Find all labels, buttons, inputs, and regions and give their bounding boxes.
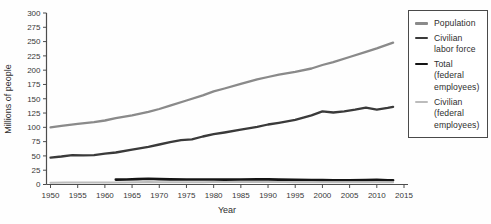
y-tick-label: 250 <box>27 37 41 46</box>
population-line <box>51 43 394 128</box>
y-tick-label: 275 <box>27 23 41 32</box>
legend-label-line: (federal <box>434 70 479 82</box>
population-legend-swatch <box>415 22 428 25</box>
legend-item-label: Population <box>434 18 476 30</box>
total-federal-employees-line <box>116 179 393 181</box>
y-axis-title: Millions of people <box>3 64 13 134</box>
legend-item-label: Civilian(federalemployees) <box>434 97 479 132</box>
x-tick-label: 1995 <box>286 191 304 200</box>
legend-label-line: labor force <box>434 44 476 56</box>
y-tick-label: 100 <box>27 123 41 132</box>
x-tick-label: 2000 <box>314 191 332 200</box>
line-chart-figure: 0255075100125150175200225250275300195019… <box>0 0 491 224</box>
x-tick-label: 1970 <box>150 191 168 200</box>
x-tick-label: 2005 <box>341 191 359 200</box>
y-tick-label: 225 <box>27 52 41 61</box>
legend-item-civilian-federal-employees: Civilian(federalemployees) <box>415 97 482 132</box>
series-lines <box>51 43 394 183</box>
y-tick-label: 75 <box>32 137 41 146</box>
axes: 0255075100125150175200225250275300195019… <box>27 9 413 200</box>
civilian-labor-force-legend-swatch <box>415 37 428 40</box>
civilian-federal-employees-line <box>51 182 394 183</box>
x-axis-title: Year <box>218 205 236 215</box>
civilian-federal-employees-legend-swatch <box>415 101 428 104</box>
civilian-labor-force-line <box>51 107 394 158</box>
y-tick-label: 300 <box>27 9 41 18</box>
y-tick-label: 200 <box>27 66 41 75</box>
legend-label-line: employees) <box>434 120 479 132</box>
legend-item-total-federal-employees: Total(federalemployees) <box>415 59 482 94</box>
legend-label-line: Civilian <box>434 33 476 45</box>
legend-label-line: Population <box>434 18 476 30</box>
x-tick-label: 1985 <box>232 191 250 200</box>
legend-item-label: Total(federalemployees) <box>434 59 479 94</box>
total-federal-employees-legend-swatch <box>415 63 428 66</box>
legend-item-label: Civilianlabor force <box>434 33 476 56</box>
x-tick-label: 1980 <box>205 191 223 200</box>
legend-label-line: (federal <box>434 108 479 120</box>
x-tick-label: 2015 <box>395 191 413 200</box>
y-tick-label: 25 <box>32 166 41 175</box>
x-tick-label: 1955 <box>69 191 87 200</box>
y-tick-label: 175 <box>27 80 41 89</box>
x-tick-label: 1950 <box>42 191 60 200</box>
legend: PopulationCivilianlabor forceTotal(feder… <box>408 10 488 138</box>
y-tick-label: 50 <box>32 152 41 161</box>
x-tick-label: 1990 <box>259 191 277 200</box>
x-tick-label: 1960 <box>96 191 114 200</box>
legend-label-line: employees) <box>434 82 479 94</box>
legend-item-population: Population <box>415 18 482 30</box>
y-tick-label: 150 <box>27 95 41 104</box>
x-tick-label: 2010 <box>368 191 386 200</box>
legend-label-line: Civilian <box>434 97 479 109</box>
legend-item-civilian-labor-force: Civilianlabor force <box>415 33 482 56</box>
y-tick-label: 125 <box>27 109 41 118</box>
legend-label-line: Total <box>434 59 479 71</box>
x-tick-label: 1975 <box>178 191 196 200</box>
x-tick-label: 1965 <box>123 191 141 200</box>
y-tick-label: 0 <box>36 180 41 189</box>
